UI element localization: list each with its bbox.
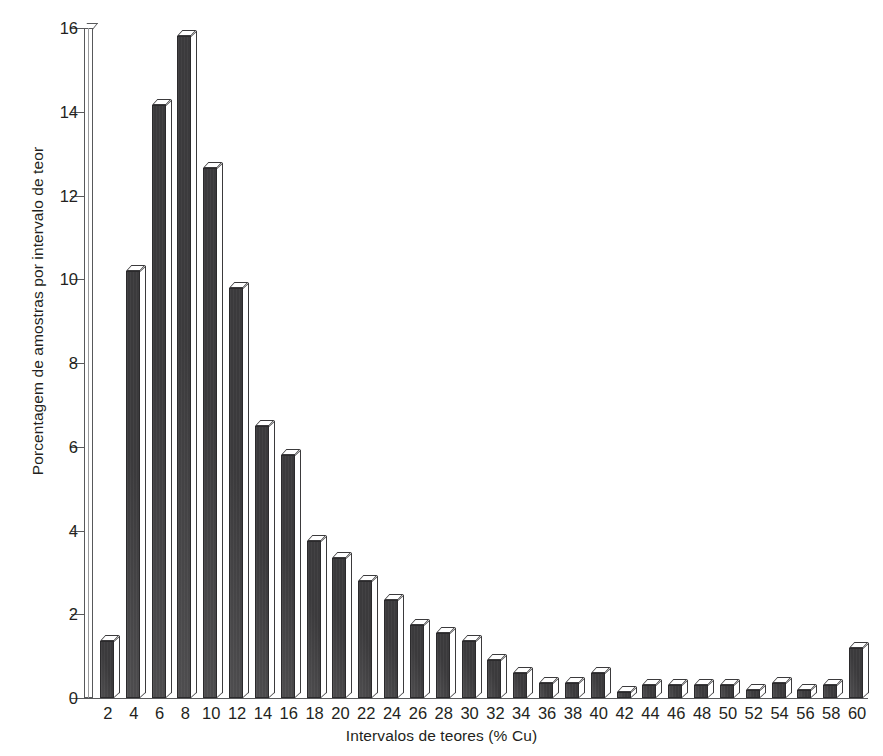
x-tick-label: 34 [512, 704, 530, 723]
x-tick-label: 22 [357, 704, 375, 723]
bar-front-face [720, 685, 734, 698]
x-tick-label: 52 [745, 704, 763, 723]
bar [591, 667, 605, 698]
x-axis-title: Intervalos de teores (% Cu) [0, 727, 883, 745]
x-tick-label: 26 [409, 704, 427, 723]
bar-side-face [140, 265, 146, 698]
bar-side-face [114, 636, 120, 698]
bar [255, 420, 269, 698]
bar-side-face [166, 100, 172, 698]
y-tick-label: 10 [60, 270, 78, 289]
bar-front-face [384, 600, 398, 698]
x-tick-label: 48 [693, 704, 711, 723]
bar [177, 30, 191, 698]
bar [565, 677, 579, 698]
x-tick-label: 38 [564, 704, 582, 723]
y-tick-label: 16 [60, 19, 78, 38]
x-tick-label: 58 [822, 704, 840, 723]
bar-front-face [746, 690, 760, 698]
x-tick-label: 44 [641, 704, 659, 723]
bar [100, 635, 114, 698]
bar-front-face [332, 558, 346, 698]
bar [462, 635, 476, 698]
bar-front-face [591, 673, 605, 698]
y-tick-label: 12 [60, 186, 78, 205]
bar-side-face [243, 282, 249, 698]
bar-side-face [346, 552, 352, 698]
bar-side-face [321, 536, 327, 698]
bar [772, 677, 786, 698]
x-tick-label: 18 [305, 704, 323, 723]
y-axis-rail [84, 28, 93, 698]
y-tick-label: 2 [69, 605, 78, 624]
bar [539, 677, 553, 698]
x-tick-label: 32 [486, 704, 504, 723]
bar-front-face [436, 633, 450, 698]
bar-front-face [642, 685, 656, 698]
bar-front-face [358, 581, 372, 698]
bar-side-face [269, 420, 275, 698]
bar-series [93, 28, 868, 698]
bar-front-face [565, 683, 579, 698]
histogram-chart: Porcentagem de amostras por intervalo de… [0, 0, 883, 756]
bar-front-face [617, 692, 631, 698]
x-tick-label: 40 [590, 704, 608, 723]
bar-front-face [126, 271, 140, 698]
bar [694, 679, 708, 698]
x-tick-label: 2 [103, 704, 112, 723]
bar-front-face [772, 683, 786, 698]
bar [229, 282, 243, 698]
bar [668, 679, 682, 698]
bar-front-face [462, 641, 476, 698]
x-tick-label: 28 [435, 704, 453, 723]
bar-front-face [281, 455, 295, 698]
bar-side-face [295, 450, 301, 698]
bar-front-face [255, 426, 269, 698]
bar [126, 265, 140, 698]
bar-front-face [823, 685, 837, 698]
bar [384, 594, 398, 698]
x-tick-label: 10 [202, 704, 220, 723]
x-tick-label: 46 [667, 704, 685, 723]
x-tick-label: 50 [719, 704, 737, 723]
bar [436, 627, 450, 698]
bar [642, 679, 656, 698]
y-axis-title: Porcentagem de amostras por intervalo de… [29, 61, 47, 561]
bar-front-face [539, 683, 553, 698]
x-tick-label: 16 [280, 704, 298, 723]
bar [849, 642, 863, 698]
bar-side-face [863, 642, 869, 698]
x-tick-label: 12 [228, 704, 246, 723]
bar-front-face [100, 641, 114, 698]
bar-front-face [797, 690, 811, 698]
x-tick-label: 36 [538, 704, 556, 723]
x-tick-label: 20 [331, 704, 349, 723]
x-tick-label: 6 [155, 704, 164, 723]
bar [332, 552, 346, 698]
bar-front-face [152, 105, 166, 698]
x-tick-label: 60 [848, 704, 866, 723]
x-tick-label: 56 [796, 704, 814, 723]
bar-side-face [372, 575, 378, 698]
bar-front-face [694, 685, 708, 698]
bar-front-face [410, 625, 424, 698]
bar-front-face [229, 288, 243, 698]
bar-front-face [668, 685, 682, 698]
bar-front-face [203, 168, 217, 698]
x-tick-label: 8 [181, 704, 190, 723]
bar-side-face [527, 667, 533, 698]
bar-side-face [191, 31, 197, 698]
bar [720, 679, 734, 698]
bar [797, 684, 811, 698]
bar-side-face [398, 594, 404, 698]
bar-side-face [476, 636, 482, 698]
y-tick-label: 0 [69, 689, 78, 708]
bar [307, 535, 321, 698]
y-tick-label: 4 [69, 521, 78, 540]
bar-front-face [513, 673, 527, 698]
bar-front-face [177, 36, 191, 698]
bar [823, 679, 837, 698]
bar-front-face [849, 648, 863, 698]
x-tick-label: 24 [383, 704, 401, 723]
bar-front-face [487, 660, 501, 698]
